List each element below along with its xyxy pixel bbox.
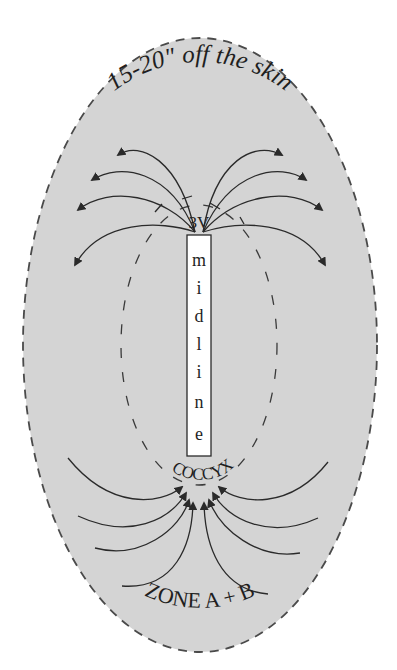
midline-letter: i [196, 278, 201, 298]
energy-field-diagram: 3V m i d l i n e COCCYX 15-20" off the s… [0, 0, 397, 670]
third-ventricle-label: 3V [189, 213, 211, 232]
midline-letter: e [195, 424, 203, 444]
midline-letter: i [196, 362, 201, 382]
midline-letter: d [195, 306, 204, 326]
midline-letter: m [192, 250, 206, 270]
midline-letter: l [196, 334, 201, 354]
midline-letter: n [195, 392, 204, 412]
